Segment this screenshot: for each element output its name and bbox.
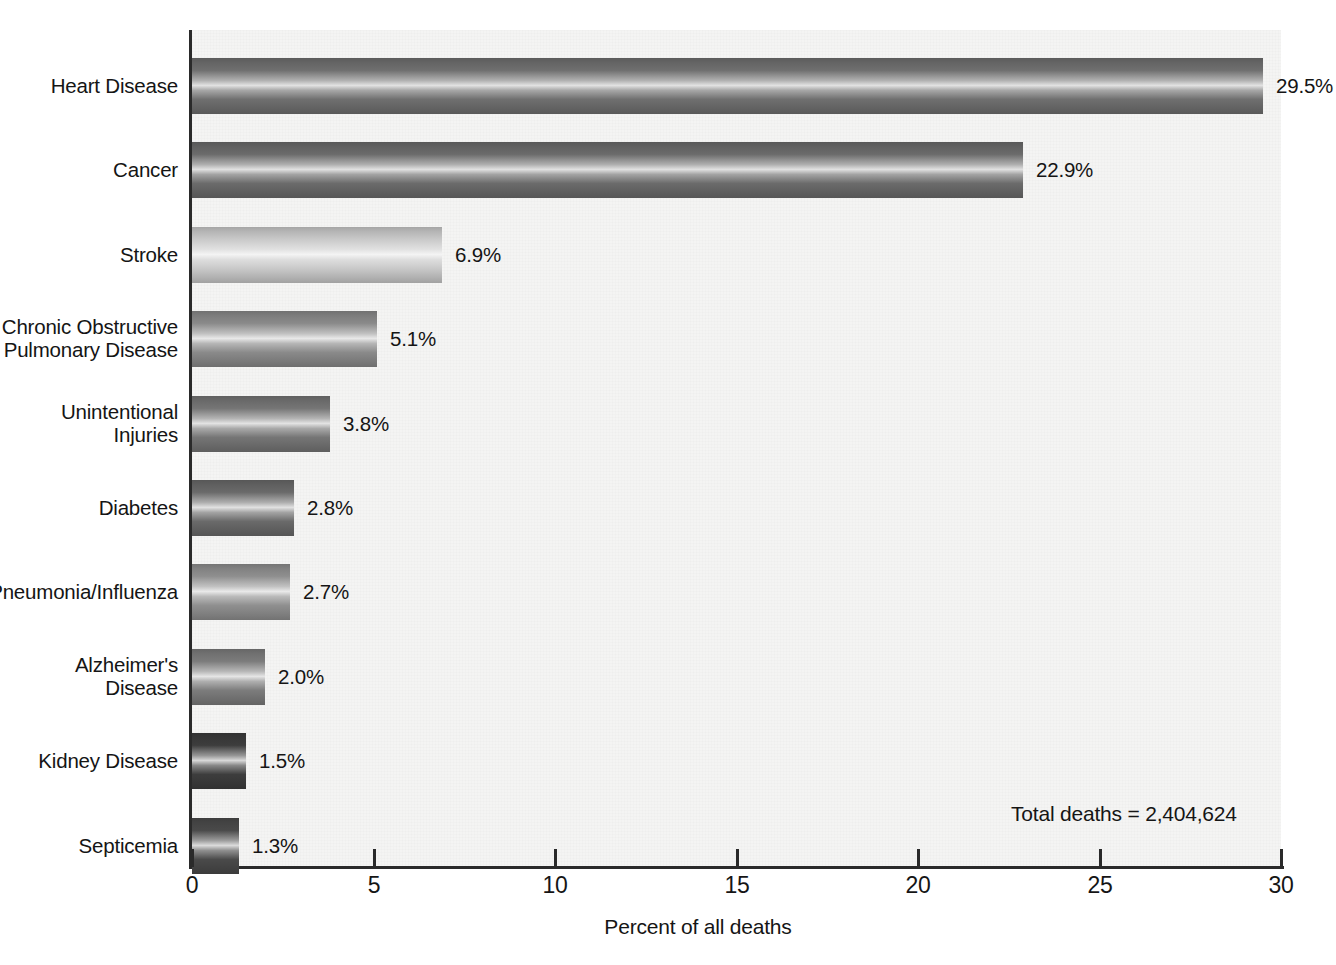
bar-value-label: 2.7% bbox=[303, 580, 349, 604]
bar-row: Unintentional Injuries3.8% bbox=[0, 396, 1336, 452]
x-tick-label: 10 bbox=[543, 872, 568, 899]
category-label: Kidney Disease bbox=[38, 750, 178, 773]
category-label: Chronic Obstructive Pulmonary Disease bbox=[2, 316, 178, 362]
bar-value-label: 6.9% bbox=[455, 243, 501, 267]
x-tick bbox=[1280, 849, 1283, 867]
bar bbox=[192, 396, 330, 452]
x-tick bbox=[191, 849, 194, 867]
category-label: Diabetes bbox=[99, 497, 178, 520]
bar-value-label: 1.3% bbox=[252, 834, 298, 858]
bar bbox=[192, 733, 246, 789]
category-label: Septicemia bbox=[79, 835, 178, 858]
x-tick bbox=[736, 849, 739, 867]
x-tick-label: 15 bbox=[725, 872, 750, 899]
bar-row: Septicemia1.3% bbox=[0, 818, 1336, 874]
bar-row: Kidney Disease1.5% bbox=[0, 733, 1336, 789]
bar-value-label: 1.5% bbox=[259, 749, 305, 773]
bar bbox=[192, 227, 442, 283]
bar bbox=[192, 311, 377, 367]
bar-row: Cancer22.9% bbox=[0, 142, 1336, 198]
bar-value-label: 29.5% bbox=[1276, 74, 1333, 98]
bar-row: Heart Disease29.5% bbox=[0, 58, 1336, 114]
category-label: Pneumonia/Influenza bbox=[0, 581, 178, 604]
bottom-caption bbox=[0, 958, 1336, 965]
x-axis-title: Percent of all deaths bbox=[0, 915, 1336, 939]
x-tick bbox=[1099, 849, 1102, 867]
category-label: Alzheimer's Disease bbox=[75, 654, 178, 700]
category-label: Unintentional Injuries bbox=[0, 401, 178, 447]
bar-row: Chronic Obstructive Pulmonary Disease5.1… bbox=[0, 311, 1336, 367]
x-tick bbox=[554, 849, 557, 867]
bar-row: Stroke6.9% bbox=[0, 227, 1336, 283]
bar bbox=[192, 818, 239, 874]
x-tick-label: 20 bbox=[906, 872, 931, 899]
category-label: Heart Disease bbox=[51, 75, 178, 98]
bar bbox=[192, 649, 265, 705]
x-tick bbox=[373, 849, 376, 867]
bar-row: Diabetes2.8% bbox=[0, 480, 1336, 536]
category-label: Stroke bbox=[120, 244, 178, 267]
bar-value-label: 5.1% bbox=[390, 327, 436, 351]
category-label: Cancer bbox=[113, 159, 178, 182]
bar bbox=[192, 564, 290, 620]
x-tick-label: 0 bbox=[186, 872, 199, 899]
bar-chart-figure: Heart Disease29.5%Cancer22.9%Stroke6.9%C… bbox=[0, 0, 1336, 965]
total-deaths-annotation: Total deaths = 2,404,624 bbox=[1011, 802, 1237, 826]
bar-row: Alzheimer's Disease2.0% bbox=[0, 649, 1336, 705]
x-tick-label: 25 bbox=[1088, 872, 1113, 899]
bar-value-label: 2.8% bbox=[307, 496, 353, 520]
x-axis-title-text: Percent of all deaths bbox=[604, 915, 791, 938]
bar-value-label: 3.8% bbox=[343, 412, 389, 436]
bar bbox=[192, 142, 1023, 198]
bar-value-label: 22.9% bbox=[1036, 158, 1093, 182]
x-tick bbox=[917, 849, 920, 867]
x-tick-label: 30 bbox=[1269, 872, 1294, 899]
bar-value-label: 2.0% bbox=[278, 665, 324, 689]
bar bbox=[192, 58, 1263, 114]
bar-row: Pneumonia/Influenza2.7% bbox=[0, 564, 1336, 620]
bar bbox=[192, 480, 294, 536]
x-tick-label: 5 bbox=[368, 872, 381, 899]
